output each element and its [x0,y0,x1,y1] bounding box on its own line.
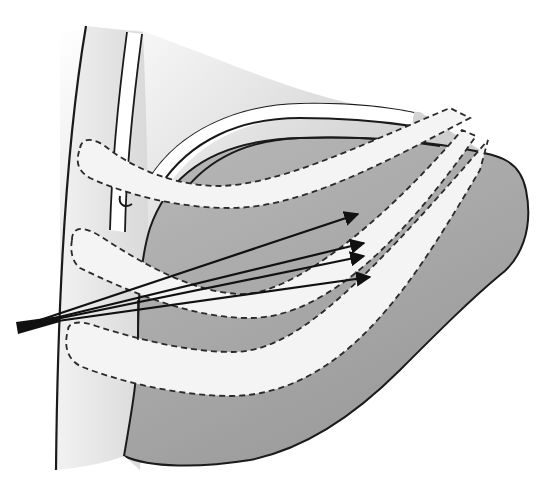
diagram-canvas [0,0,553,484]
anatomical-diagram [0,0,553,484]
